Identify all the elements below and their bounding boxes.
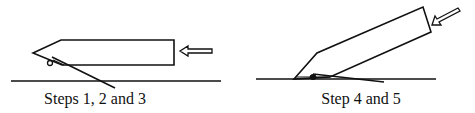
hinge-circle-left: [48, 61, 53, 66]
push-arrow-right-icon: [432, 8, 460, 25]
caption-steps-1-2-3: Steps 1, 2 and 3: [44, 90, 146, 108]
right-panel: [256, 7, 460, 82]
pen-body-horizontal: [33, 40, 174, 65]
flap-stick-left: [52, 57, 115, 88]
hinge-circle-right: [310, 75, 316, 80]
left-panel: [11, 40, 221, 88]
caption-steps-4-5: Step 4 and 5: [321, 90, 401, 108]
push-arrow-left-icon: [180, 46, 212, 56]
pen-body-tilted: [294, 7, 431, 79]
